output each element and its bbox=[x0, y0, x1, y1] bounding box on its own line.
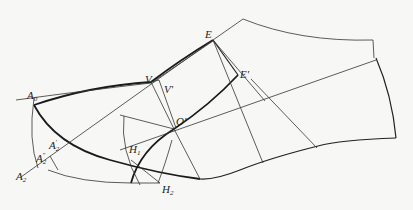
top-line-straight bbox=[16, 41, 213, 100]
a2prime-tick bbox=[50, 156, 58, 170]
oprime-line-down bbox=[174, 129, 200, 179]
label-h1: H1 bbox=[128, 143, 140, 157]
heel-edge bbox=[376, 58, 396, 138]
e-ray-3 bbox=[251, 79, 317, 148]
upper-outline bbox=[213, 19, 374, 58]
label-a0: A0 bbox=[26, 89, 38, 103]
label-a2-double-prime: A2″ bbox=[35, 151, 47, 166]
bottom-outline bbox=[200, 138, 396, 179]
e-ray-2 bbox=[213, 40, 263, 163]
top-line-curve bbox=[34, 40, 213, 105]
oprime-line-left bbox=[120, 115, 174, 129]
label-e: E bbox=[204, 28, 212, 40]
lower-base-line bbox=[48, 170, 160, 183]
label-a2: A2 bbox=[15, 170, 27, 184]
label-a2-prime: A2′ bbox=[48, 138, 60, 153]
label-o-prime: O′ bbox=[176, 115, 187, 127]
label-e-prime: E′ bbox=[239, 68, 250, 80]
drafting-diagram: E E′ V V′ O′ A0 A2 A2′ A2″ H1 H2 bbox=[0, 0, 413, 210]
label-h2: H2 bbox=[161, 183, 174, 197]
throat-curve bbox=[131, 75, 238, 183]
diagram-svg: E E′ V V′ O′ A0 A2 A2′ A2″ H1 H2 bbox=[0, 0, 413, 210]
arc-h2 bbox=[158, 140, 172, 183]
label-v-prime: V′ bbox=[164, 83, 174, 95]
